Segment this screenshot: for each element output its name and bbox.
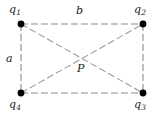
center-point-label-p: P	[77, 63, 84, 74]
charge-dot-q1	[18, 21, 25, 28]
charge-label-q2-base: q	[134, 3, 141, 16]
charge-dot-q3	[140, 90, 147, 97]
side-label-b: b	[76, 5, 83, 16]
charge-label-q3-subscript: 3	[141, 103, 146, 112]
charge-label-q1: q1	[9, 4, 21, 17]
charge-dot-q4	[18, 90, 25, 97]
charge-label-q3-base: q	[134, 98, 141, 111]
charge-label-q1-subscript: 1	[16, 8, 21, 17]
charge-dot-q2	[140, 21, 147, 28]
charge-label-q2-subscript: 2	[141, 8, 146, 17]
diagonals	[21, 24, 143, 93]
physics-figure: q1 q2 q3 q4 a b P	[0, 0, 163, 117]
charge-label-q2: q2	[134, 4, 146, 17]
charge-label-q1-base: q	[9, 3, 16, 16]
charge-label-q4-base: q	[9, 98, 16, 111]
charge-label-q4: q4	[9, 99, 21, 112]
charge-label-q3: q3	[134, 99, 146, 112]
side-label-a: a	[6, 53, 13, 64]
charge-label-q4-subscript: 4	[16, 103, 21, 112]
